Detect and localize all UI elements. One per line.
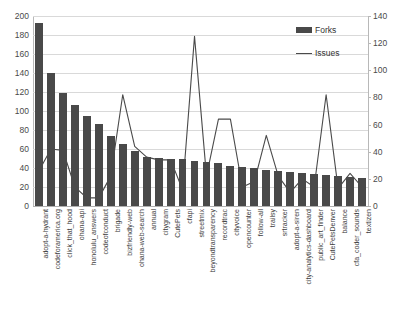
y-axis-left-tick-label: 40 [0,164,29,173]
y-axis-right-tick-label: 40 [373,148,382,157]
y-axis-left-tick-label: 20 [0,183,29,192]
legend-item-issues: Issues [296,49,340,58]
x-axis-labels: adopt-a-hydrantcodeforamerica.orgclick_t… [33,207,368,312]
legend-bar-swatch-icon [296,27,312,33]
x-axis-tick-label: adopt-a-hydrant [42,209,49,258]
y-axis-right-tick-label: 120 [373,39,387,48]
x-axis-tick-label: city-analytics-dashboard [305,209,312,284]
y-axis-left-tick-label: 180 [0,31,29,40]
y-axis-left-tick-label: 0 [0,202,29,211]
y-axis-right-tick-label: 140 [373,12,387,21]
y-axis-left-tick-label: 140 [0,69,29,78]
x-axis-tick-label: citygram [162,209,169,235]
y-axis-right-tick-label: 100 [373,66,387,75]
chart-container: 020406080100120140160180200 020406080100… [0,0,399,312]
x-axis-tick-label: public_art_finder [317,209,324,261]
x-axis-tick-label: CutePets [174,209,181,238]
x-axis-tick-label: ohana-api [78,209,85,240]
x-axis-tick-label: codeofconduct [102,209,109,255]
y-axis-right-ticks: 020406080100120140 [373,0,399,312]
x-axis-tick-label: cfa_coder_sounds [353,209,360,266]
x-axis-tick-label: trailsy [269,209,276,227]
x-axis-tick-label: textizen [365,209,372,233]
y-axis-right-tick-label: 0 [373,202,378,211]
x-axis-tick-label: click_that_hood [66,209,73,258]
x-axis-tick-label: codeforamerica.org [54,209,61,269]
x-axis-tick-label: cityvoice [233,209,240,236]
legend-line-swatch-icon [296,53,312,54]
x-axis-tick-label: balance [341,209,348,234]
x-axis-tick-label: ohana-web-search [138,209,145,267]
y-axis-right-tick-label: 60 [373,121,382,130]
y-axis-left-tick-label: 200 [0,12,29,21]
x-axis-tick-label: beyondtransparency [209,209,216,272]
y-axis-left-tick-label: 120 [0,88,29,97]
x-axis-tick-label: opencounter [245,209,252,248]
x-axis-tick-label: annual [150,209,157,230]
chart-legend: Forks Issues [296,26,372,68]
x-axis-tick-label: honolulu_answers [90,209,97,265]
y-axis-right-tick-label: 20 [373,175,382,184]
y-axis-left-tick-label: 100 [0,107,29,116]
x-axis-tick-label: follow-all [257,209,264,236]
x-axis-tick-label: cfapi [186,209,193,224]
y-axis-left-ticks: 020406080100120140160180200 [0,0,29,312]
legend-label-issues: Issues [315,49,340,58]
legend-item-forks: Forks [296,26,336,35]
y-axis-left-tick-label: 60 [0,145,29,154]
x-axis-tick-label: bizfriendly-web [126,209,133,256]
x-axis-tick-label: recordtrac [221,209,228,241]
x-axis-tick-label: srtracker [281,209,288,236]
y-axis-left-tick-label: 80 [0,126,29,135]
y-axis-left-tick-label: 160 [0,50,29,59]
x-axis-tick-label: adopt-a-siren [293,209,300,250]
x-axis-tick-label: streetmix [198,209,205,237]
x-axis-tick-label: brigade [114,209,121,232]
legend-label-forks: Forks [315,26,336,35]
x-axis-tick-label: CutePetsDenver [329,209,336,260]
y-axis-right-tick-label: 80 [373,93,382,102]
